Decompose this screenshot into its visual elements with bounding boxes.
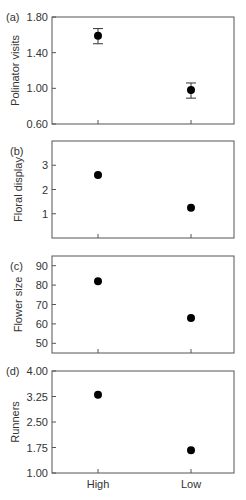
y-tick-label: 50 [36, 337, 48, 349]
y-tick-label: 2.50 [27, 416, 48, 428]
y-tick-label: 1.40 [27, 47, 48, 59]
y-axis-title: Flower size [12, 277, 24, 333]
y-tick-label: 1.00 [27, 467, 48, 479]
y-tick-label: 70 [36, 299, 48, 311]
panel-a: 0.601.001.401.80(a)Polinator visits [6, 11, 234, 130]
data-point-low [187, 86, 195, 94]
y-tick-label: 1.80 [27, 11, 48, 23]
panel-letter: (a) [6, 11, 19, 23]
data-point-low [187, 204, 195, 212]
chart-figure: 0.601.001.401.80(a)Polinator visits123(b… [0, 0, 246, 500]
plot-frame [52, 256, 234, 353]
y-tick-label: 3 [42, 159, 48, 171]
panel-letter: (c) [10, 260, 23, 272]
y-axis-title: Floral display [12, 157, 24, 222]
y-tick-label: 1 [42, 208, 48, 220]
panel-d: 1.001.752.503.254.00(d)RunnersHighLow [6, 365, 234, 490]
y-tick-label: 90 [36, 260, 48, 272]
plot-frame [52, 17, 234, 124]
panel-b: 123(b)Floral display [10, 141, 234, 238]
plot-frame [52, 141, 234, 238]
data-point-high [94, 277, 102, 285]
x-tick-label: High [87, 478, 110, 490]
x-tick-label: Low [181, 478, 201, 490]
y-tick-label: 2 [42, 184, 48, 196]
plot-frame [52, 371, 234, 473]
panel-c: 5060708090(c)Flower size [10, 256, 234, 353]
y-tick-label: 3.25 [27, 391, 48, 403]
data-point-high [94, 32, 102, 40]
data-point-low [187, 446, 195, 454]
y-tick-label: 4.00 [27, 365, 48, 377]
panel-letter: (d) [6, 365, 19, 377]
data-point-low [187, 314, 195, 322]
data-point-high [94, 171, 102, 179]
y-tick-label: 80 [36, 279, 48, 291]
y-axis-title: Polinator visits [9, 35, 21, 106]
y-tick-label: 1.00 [27, 82, 48, 94]
data-point-high [94, 391, 102, 399]
y-axis-title: Runners [9, 401, 21, 443]
y-tick-label: 60 [36, 318, 48, 330]
y-tick-label: 1.75 [27, 442, 48, 454]
y-tick-label: 0.60 [27, 118, 48, 130]
panel-letter: (b) [10, 145, 23, 157]
